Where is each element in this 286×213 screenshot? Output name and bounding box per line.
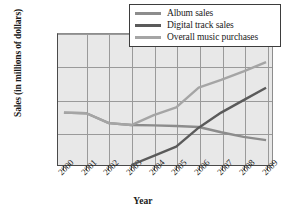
legend-label: Album sales: [167, 8, 213, 19]
legend-item: Album sales: [133, 7, 277, 19]
legend-swatch-icon: [135, 24, 161, 27]
legend-item: Digital track sales: [133, 19, 277, 31]
legend-label: Overall music purchases: [167, 32, 258, 43]
series-line: [64, 62, 266, 125]
plot-area: [57, 33, 273, 166]
legend-item: Overall music purchases: [133, 31, 277, 43]
chart-legend: Album salesDigital track salesOverall mu…: [129, 4, 281, 47]
y-axis-title: Sales (in millions of dollars): [13, 0, 23, 133]
x-axis-title: Year: [0, 196, 286, 206]
chart-figure: Sales (in millions of dollars) 05001,000…: [0, 0, 286, 213]
series-lines: [58, 34, 272, 165]
legend-swatch-icon: [135, 36, 161, 39]
legend-label: Digital track sales: [167, 20, 234, 31]
legend-swatch-icon: [135, 12, 161, 15]
